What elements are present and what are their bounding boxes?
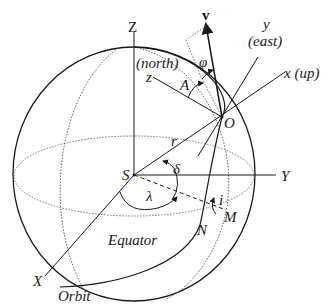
- label-delta: δ: [173, 161, 181, 177]
- velocity-vector: [206, 25, 222, 117]
- label-z-axis: Z: [128, 19, 137, 35]
- meridian-left-dotted: [60, 48, 118, 290]
- label-m: M: [223, 209, 238, 225]
- label-z-north: z: [145, 69, 152, 85]
- east-axis: [198, 57, 258, 156]
- label-y-east: y: [261, 16, 270, 32]
- label-angle-a: A: [179, 77, 190, 93]
- x-axis: [45, 175, 134, 276]
- label-n: N: [196, 222, 208, 238]
- label-north: (north): [136, 55, 179, 72]
- label-x-axis: X: [32, 273, 43, 289]
- label-y-axis: Y: [281, 168, 291, 184]
- label-o: O: [224, 115, 235, 131]
- radius-line-r: [134, 72, 285, 175]
- label-lambda: λ: [145, 188, 153, 204]
- label-orbit: Orbit: [58, 288, 91, 304]
- label-x-up: x (up): [283, 65, 319, 82]
- label-r: r: [171, 133, 177, 149]
- label-i: i: [219, 192, 223, 208]
- label-v: v: [202, 7, 210, 23]
- label-s: S: [122, 167, 130, 183]
- point-s: [133, 174, 136, 177]
- label-east: (east): [248, 33, 282, 50]
- angle-a-arc: [188, 83, 203, 98]
- label-angle-phi: φ: [199, 54, 207, 70]
- orbit-path: [60, 47, 225, 287]
- label-equator: Equator: [107, 232, 157, 248]
- celestial-sphere-diagram: Z Y X S O M N v y (east) x (up) (north) …: [0, 0, 329, 307]
